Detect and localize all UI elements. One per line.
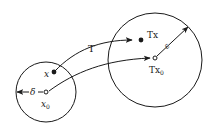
label-x0-sub: 0 [46,103,50,110]
label-Tx0-sub: 0 [160,69,164,76]
point-Tx0 [153,56,157,60]
label-Tx: Tx [147,30,158,40]
point-x0 [44,90,48,94]
continuity-diagram: T δ ε x x0 Tx Tx0 [0,0,212,134]
mapping-label-T: T [88,43,95,54]
label-Tx0: Tx0 [149,65,164,76]
point-x [52,70,57,75]
label-x0: x0 [41,99,50,110]
epsilon-radius-arrow [157,27,188,56]
label-x: x [44,69,49,79]
point-Tx [139,38,144,43]
delta-label: δ [30,87,35,97]
label-Tx0-base: Tx [149,65,160,75]
